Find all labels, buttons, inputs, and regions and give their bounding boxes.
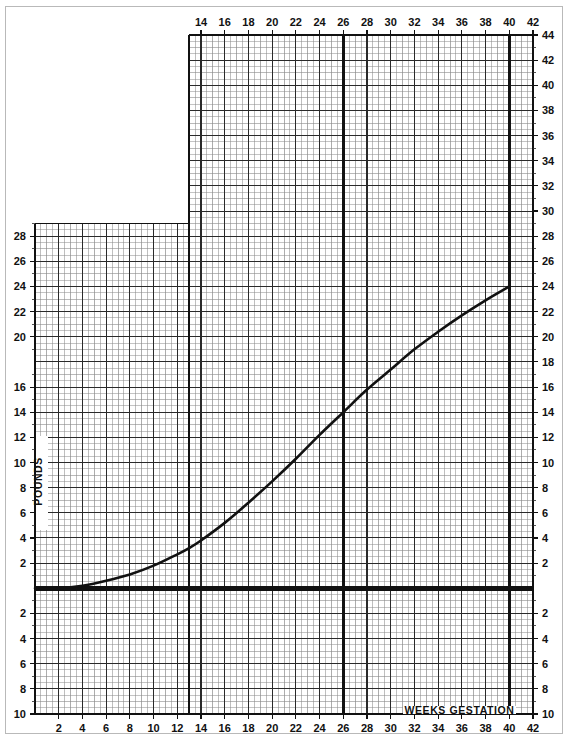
x-axis-label-top-30: 30 xyxy=(385,16,397,28)
x-axis-title: WEEKS GESTATION xyxy=(404,704,514,716)
x-axis-label-top-38: 38 xyxy=(479,16,491,28)
y-axis-label-left-6: 6 xyxy=(20,507,26,519)
y-axis-label-right-32: 32 xyxy=(542,180,554,192)
x-axis-label-bottom-40: 40 xyxy=(503,722,515,734)
x-axis-label-bottom-24: 24 xyxy=(313,722,326,734)
y-axis-label-right-6: 6 xyxy=(542,507,548,519)
x-axis-label-bottom-14: 14 xyxy=(195,722,208,734)
x-axis-label-top-16: 16 xyxy=(219,16,231,28)
y-axis-label-left-minus6: 6 xyxy=(20,658,26,670)
chart-page: 2468101214161820222426283032343638404214… xyxy=(0,0,569,749)
y-axis-label-left-16: 16 xyxy=(14,381,26,393)
y-axis-label-left-minus4: 4 xyxy=(20,633,27,645)
x-axis-label-top-18: 18 xyxy=(242,16,254,28)
y-axis-label-right-28: 28 xyxy=(542,230,554,242)
y-axis-label-left-2: 2 xyxy=(20,557,26,569)
y-axis-label-right-24: 24 xyxy=(542,280,555,292)
y-axis-label-right-40: 40 xyxy=(542,79,554,91)
y-axis-label-right-44: 44 xyxy=(542,29,555,41)
x-axis-label-bottom-26: 26 xyxy=(337,722,349,734)
x-axis-label-bottom-38: 38 xyxy=(479,722,491,734)
x-axis-label-top-32: 32 xyxy=(408,16,420,28)
x-axis-label-top-28: 28 xyxy=(361,16,373,28)
x-axis-label-bottom-36: 36 xyxy=(456,722,468,734)
x-axis-label-top-14: 14 xyxy=(195,16,208,28)
x-axis-label-bottom-34: 34 xyxy=(432,722,445,734)
y-axis-label-left-26: 26 xyxy=(14,255,26,267)
x-axis-label-bottom-28: 28 xyxy=(361,722,373,734)
y-axis-label-left-28: 28 xyxy=(14,230,26,242)
y-axis-label-right-34: 34 xyxy=(542,155,555,167)
y-axis-label-left-4: 4 xyxy=(20,532,27,544)
chart-svg: 2468101214161820222426283032343638404214… xyxy=(0,0,569,749)
minor-gridlines xyxy=(35,35,533,714)
y-axis-label-left-10: 10 xyxy=(14,457,26,469)
prenatal-weight-gain-chart: 2468101214161820222426283032343638404214… xyxy=(0,0,569,749)
y-axis-label-right-36: 36 xyxy=(542,130,554,142)
x-axis-label-top-42: 42 xyxy=(527,16,539,28)
y-axis-label-right-2: 2 xyxy=(542,557,548,569)
y-axis-label-left-minus2: 2 xyxy=(20,607,26,619)
x-axis-label-bottom-8: 8 xyxy=(127,722,133,734)
x-axis-label-bottom-32: 32 xyxy=(408,722,420,734)
y-axis-label-left-minus8: 8 xyxy=(20,683,26,695)
y-axis-label-right-16: 16 xyxy=(542,381,554,393)
y-axis-label-right-10: 10 xyxy=(542,457,554,469)
y-axis-label-left-12: 12 xyxy=(14,431,26,443)
x-axis-label-bottom-12: 12 xyxy=(171,722,183,734)
y-axis-label-left-14: 14 xyxy=(14,406,27,418)
x-axis-label-bottom-22: 22 xyxy=(290,722,302,734)
y-axis-label-right-minus8: 8 xyxy=(542,683,548,695)
y-axis-label-right-minus2: 2 xyxy=(542,607,548,619)
y-axis-label-right-18: 18 xyxy=(542,356,554,368)
y-axis-label-right-42: 42 xyxy=(542,54,554,66)
y-axis-label-right-4: 4 xyxy=(542,532,549,544)
x-axis-label-bottom-18: 18 xyxy=(242,722,254,734)
y-axis-label-right-20: 20 xyxy=(542,331,554,343)
y-axis-label-right-14: 14 xyxy=(542,406,555,418)
y-axis-label-right-minus10: 10 xyxy=(542,708,554,720)
x-axis-label-top-26: 26 xyxy=(337,16,349,28)
y-axis-label-right-22: 22 xyxy=(542,306,554,318)
y-axis-label-left-24: 24 xyxy=(14,280,27,292)
y-axis-label-right-minus6: 6 xyxy=(542,658,548,670)
x-axis-label-bottom-6: 6 xyxy=(103,722,109,734)
y-axis-label-left-22: 22 xyxy=(14,306,26,318)
y-axis-label-right-12: 12 xyxy=(542,431,554,443)
y-axis-label-right-26: 26 xyxy=(542,255,554,267)
x-axis-label-top-20: 20 xyxy=(266,16,278,28)
x-axis-label-bottom-10: 10 xyxy=(147,722,159,734)
x-axis-label-bottom-30: 30 xyxy=(385,722,397,734)
y-axis-label-right-30: 30 xyxy=(542,205,554,217)
x-axis-label-top-24: 24 xyxy=(313,16,326,28)
x-axis-label-bottom-4: 4 xyxy=(79,722,86,734)
x-axis-label-bottom-16: 16 xyxy=(219,722,231,734)
y-axis-label-left-8: 8 xyxy=(20,482,26,494)
y-axis-label-right-38: 38 xyxy=(542,104,554,116)
x-axis-label-bottom-2: 2 xyxy=(56,722,62,734)
x-axis-label-bottom-20: 20 xyxy=(266,722,278,734)
x-axis-label-top-40: 40 xyxy=(503,16,515,28)
y-axis-label-left-20: 20 xyxy=(14,331,26,343)
x-axis-label-bottom-42: 42 xyxy=(527,722,539,734)
x-axis-label-top-22: 22 xyxy=(290,16,302,28)
y-axis-title: POUNDS xyxy=(32,457,44,506)
x-axis-label-top-36: 36 xyxy=(456,16,468,28)
y-axis-label-right-minus4: 4 xyxy=(542,633,549,645)
x-axis-label-top-34: 34 xyxy=(432,16,445,28)
y-axis-label-right-8: 8 xyxy=(542,482,548,494)
y-axis-label-left-minus10: 10 xyxy=(14,708,26,720)
